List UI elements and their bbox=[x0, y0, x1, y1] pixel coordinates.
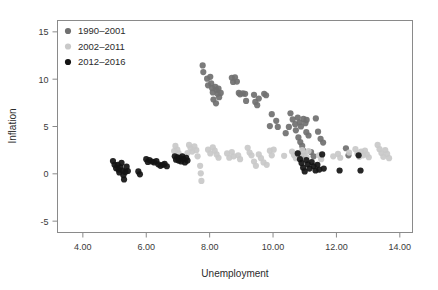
data-point bbox=[256, 95, 262, 101]
data-point bbox=[118, 160, 124, 166]
data-point bbox=[337, 155, 343, 161]
data-point bbox=[305, 132, 311, 138]
legend-label-1: 1990–2001 bbox=[78, 25, 126, 36]
data-point bbox=[164, 163, 170, 169]
data-point bbox=[271, 147, 277, 153]
legend-marker-1 bbox=[65, 28, 71, 34]
y-tick-label: -5 bbox=[40, 217, 48, 227]
y-tick-label: 15 bbox=[38, 27, 48, 37]
data-point bbox=[198, 178, 204, 184]
y-tick-label: 0 bbox=[43, 169, 48, 179]
data-point bbox=[366, 154, 372, 160]
legend-label-2: 2002–2011 bbox=[78, 41, 125, 52]
data-point bbox=[184, 157, 190, 163]
data-point bbox=[356, 152, 362, 158]
data-point bbox=[311, 153, 317, 159]
data-point bbox=[313, 115, 319, 121]
x-tick-label: 12.00 bbox=[325, 242, 348, 252]
data-point bbox=[215, 155, 221, 161]
data-point bbox=[243, 98, 249, 104]
data-point bbox=[305, 148, 311, 154]
x-tick-label: 8.00 bbox=[201, 242, 219, 252]
data-point bbox=[207, 74, 213, 80]
data-point bbox=[137, 171, 143, 177]
data-point bbox=[337, 167, 343, 173]
legend-label-3: 2012–2016 bbox=[78, 56, 126, 67]
x-axis-title: Unemployment bbox=[201, 268, 268, 279]
data-point bbox=[320, 139, 326, 145]
data-point bbox=[283, 130, 289, 136]
data-point bbox=[218, 90, 224, 96]
y-tick-label: 10 bbox=[38, 75, 48, 85]
data-point bbox=[193, 147, 199, 153]
data-point bbox=[273, 118, 279, 124]
data-point bbox=[295, 150, 301, 156]
data-point bbox=[269, 152, 275, 158]
data-point bbox=[200, 69, 206, 75]
data-point bbox=[264, 162, 270, 168]
legend-marker-3 bbox=[65, 59, 71, 65]
data-point bbox=[263, 92, 269, 98]
data-point bbox=[287, 110, 293, 116]
data-point bbox=[121, 176, 127, 182]
data-point bbox=[213, 100, 219, 106]
data-point bbox=[242, 91, 248, 97]
data-point bbox=[275, 124, 281, 130]
data-point bbox=[269, 111, 275, 117]
x-tick-label: 14.00 bbox=[389, 242, 412, 252]
data-point bbox=[195, 153, 201, 159]
data-point bbox=[281, 153, 287, 159]
y-axis-title: Inflation bbox=[7, 108, 18, 143]
data-point bbox=[346, 149, 352, 155]
chart-background bbox=[0, 0, 438, 290]
data-point bbox=[286, 124, 292, 130]
data-point bbox=[304, 117, 310, 123]
data-point bbox=[319, 151, 325, 157]
legend-marker-2 bbox=[65, 43, 71, 49]
x-tick-label: 4.00 bbox=[74, 242, 92, 252]
data-point bbox=[234, 78, 240, 84]
data-point bbox=[315, 129, 321, 135]
data-point bbox=[200, 62, 206, 68]
data-point bbox=[293, 127, 299, 133]
x-tick-label: 6.00 bbox=[137, 242, 155, 252]
data-point bbox=[237, 156, 243, 162]
data-point bbox=[125, 168, 131, 174]
y-tick-label: 5 bbox=[43, 122, 48, 132]
data-point bbox=[386, 155, 392, 161]
data-point bbox=[248, 152, 254, 158]
data-point bbox=[197, 163, 203, 169]
x-tick-label: 10.00 bbox=[262, 242, 285, 252]
data-point bbox=[198, 170, 204, 176]
data-point bbox=[253, 163, 259, 169]
data-point bbox=[267, 123, 273, 129]
data-point bbox=[254, 102, 260, 108]
data-point bbox=[321, 166, 327, 172]
chart-canvas: 4.006.008.0010.0012.0014.00 -5051015 199… bbox=[0, 0, 438, 290]
data-point bbox=[357, 167, 363, 173]
data-point bbox=[330, 153, 336, 159]
scatter-chart: 4.006.008.0010.0012.0014.00 -5051015 199… bbox=[0, 0, 438, 290]
